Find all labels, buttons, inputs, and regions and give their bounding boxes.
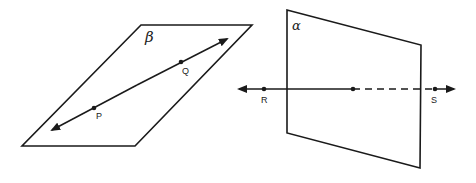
point-s xyxy=(433,87,438,92)
point-s-label: S xyxy=(431,95,437,105)
point-p-label: P xyxy=(96,111,102,121)
line-pq: P Q xyxy=(52,39,227,130)
plane-beta-label: β xyxy=(144,28,154,46)
line-rs: R S xyxy=(239,87,454,105)
point-r xyxy=(262,87,267,92)
point-r-label: R xyxy=(261,95,268,105)
point-q xyxy=(179,60,184,65)
geometry-diagram: β P Q α R S xyxy=(0,0,476,183)
point-q-label: Q xyxy=(182,66,189,76)
plane-alpha: α R S xyxy=(239,10,454,168)
intersection-point xyxy=(351,87,356,92)
point-p xyxy=(92,106,97,111)
plane-alpha-label: α xyxy=(292,18,301,33)
plane-beta: β P Q xyxy=(22,25,252,146)
